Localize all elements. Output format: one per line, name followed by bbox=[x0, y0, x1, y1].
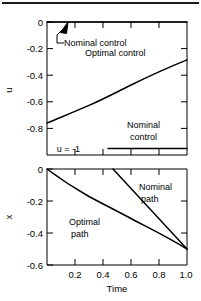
control-ytick-minus-0-4: -0.4 bbox=[27, 70, 43, 81]
state-xtick-0-2: 0.2 bbox=[68, 269, 81, 280]
state-panel: 0 -0.2 -0.4 -0.6 0.2 0.4 0.6 0.8 1.0 x T… bbox=[3, 164, 193, 295]
state-ytick-minus-0-4: -0.4 bbox=[27, 228, 43, 239]
figure-svg: 0 -0.2 -0.4 -0.6 -0.8 u Nominal control … bbox=[0, 0, 201, 301]
annotation-nominal-control-line2: control bbox=[130, 132, 157, 142]
annotation-nominal-path-line2: path bbox=[141, 194, 159, 204]
series-optimal-path bbox=[47, 169, 187, 249]
annotation-optimal-path-line1: Optimal bbox=[69, 217, 100, 227]
annotation-nominal-control-callout: Nominal control bbox=[64, 38, 127, 48]
figure-container: 0 -0.2 -0.4 -0.6 -0.8 u Nominal control … bbox=[0, 0, 201, 301]
control-ytick-minus-0-8: -0.8 bbox=[27, 123, 43, 134]
annotation-u-equals-minus-one: u = -1 bbox=[57, 144, 80, 154]
state-xtick-0-6: 0.6 bbox=[124, 269, 137, 280]
state-panel-x-axis-label: Time bbox=[107, 283, 128, 294]
control-ytick-minus-0-2: -0.2 bbox=[27, 43, 43, 54]
state-panel-y-axis-label: x bbox=[3, 214, 14, 219]
control-panel-y-axis-label: u bbox=[3, 87, 14, 92]
series-optimal-control bbox=[47, 60, 187, 123]
state-ytick-minus-0-2: -0.2 bbox=[27, 196, 43, 207]
annotation-nominal-path-line1: Nominal bbox=[139, 182, 172, 192]
annotation-nominal-control-line1: Nominal bbox=[127, 120, 160, 130]
control-panel: 0 -0.2 -0.4 -0.6 -0.8 u Nominal control … bbox=[3, 17, 187, 156]
series-nominal-path bbox=[113, 169, 187, 249]
annotation-optimal-path-line2: path bbox=[71, 229, 89, 239]
state-ytick-0: 0 bbox=[38, 164, 43, 175]
state-xtick-0-8: 0.8 bbox=[152, 269, 165, 280]
state-ytick-minus-0-6: -0.6 bbox=[27, 260, 43, 271]
annotation-optimal-control: Optimal control bbox=[85, 48, 146, 58]
control-ytick-minus-0-6: -0.6 bbox=[27, 96, 43, 107]
state-xtick-1-0: 1.0 bbox=[179, 269, 192, 280]
state-xtick-0-4: 0.4 bbox=[96, 269, 109, 280]
control-ytick-0: 0 bbox=[38, 17, 43, 28]
